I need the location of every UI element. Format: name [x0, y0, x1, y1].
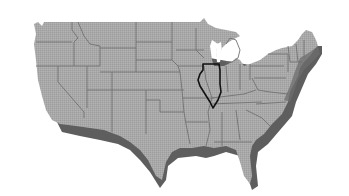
lake-michigan: [216, 42, 222, 62]
us-map: [0, 0, 349, 196]
us-map-svg: [0, 0, 349, 196]
